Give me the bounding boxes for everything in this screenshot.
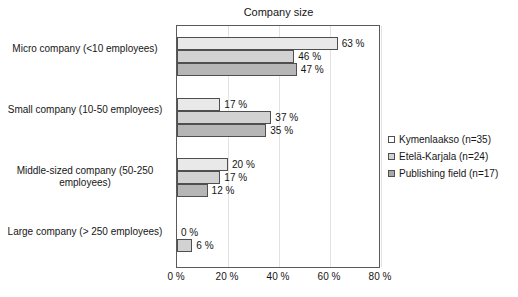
legend-label: Etelä-Karjala (n=24) xyxy=(399,151,488,162)
bar-groups: 63 %46 %47 %17 %37 %35 %20 %17 %12 %0 %6… xyxy=(177,26,379,267)
legend-swatch-icon xyxy=(388,153,395,160)
bar-value-label: 63 % xyxy=(342,38,365,49)
chart-legend: Kymenlaakso (n=35)Etelä-Karjala (n=24)Pu… xyxy=(388,131,516,182)
legend-item[interactable]: Publishing field (n=17) xyxy=(388,165,516,182)
legend-label: Kymenlaakso (n=35) xyxy=(399,134,491,145)
bar-row: 46 % xyxy=(177,50,379,63)
bar xyxy=(177,111,271,124)
category-axis-labels: Micro company (<10 employees)Small compa… xyxy=(0,25,170,268)
category-label: Middle-sized company (50-250 employees) xyxy=(0,165,170,189)
bar-value-label: 12 % xyxy=(212,185,235,196)
bar xyxy=(177,158,228,171)
bar-row: 37 % xyxy=(177,111,379,124)
bar-row: 47 % xyxy=(177,63,379,76)
bar xyxy=(177,184,208,197)
bar xyxy=(177,171,220,184)
x-axis-tick-label: 0 % xyxy=(167,271,184,282)
company-size-chart: Company size Micro company (<10 employee… xyxy=(0,0,518,297)
x-axis-tick-label: 60 % xyxy=(318,271,341,282)
bar xyxy=(177,98,220,111)
category-label: Micro company (<10 employees) xyxy=(0,43,170,55)
bar-row: 63 % xyxy=(177,37,379,50)
gridline xyxy=(381,26,382,267)
bar-group: 0 %6 % xyxy=(177,208,379,269)
x-axis-tick-label: 40 % xyxy=(267,271,290,282)
chart-title: Company size xyxy=(176,6,381,18)
bar xyxy=(177,37,338,50)
bar-group: 20 %17 %12 % xyxy=(177,148,379,209)
x-axis-tick-label: 20 % xyxy=(216,271,239,282)
bar-row: 0 % xyxy=(177,226,379,239)
bar-row: 17 % xyxy=(177,98,379,111)
bar-row: 20 % xyxy=(177,158,379,171)
bar-value-label: 6 % xyxy=(196,240,213,251)
category-label: Small company (10-50 employees) xyxy=(0,104,170,116)
bar-value-label: 37 % xyxy=(275,112,298,123)
x-axis-tick-label: 80 % xyxy=(369,271,392,282)
bar-value-label: 35 % xyxy=(270,125,293,136)
legend-item[interactable]: Kymenlaakso (n=35) xyxy=(388,131,516,148)
bar xyxy=(177,124,266,137)
bar-row: 12 % xyxy=(177,184,379,197)
bar-row: 6 % xyxy=(177,239,379,252)
bar-value-label: 0 % xyxy=(181,227,198,238)
bar-group: 17 %37 %35 % xyxy=(177,87,379,148)
legend-item[interactable]: Etelä-Karjala (n=24) xyxy=(388,148,516,165)
bar-value-label: 20 % xyxy=(232,159,255,170)
bar-value-label: 17 % xyxy=(224,172,247,183)
bar xyxy=(177,239,192,252)
legend-label: Publishing field (n=17) xyxy=(399,168,498,179)
bar-value-label: 47 % xyxy=(301,64,324,75)
legend-swatch-icon xyxy=(388,170,395,177)
bar-value-label: 17 % xyxy=(224,99,247,110)
category-label: Large company (> 250 employees) xyxy=(0,226,170,238)
legend-swatch-icon xyxy=(388,136,395,143)
bar xyxy=(177,63,297,76)
bar-value-label: 46 % xyxy=(298,51,321,62)
plot-area: 63 %46 %47 %17 %37 %35 %20 %17 %12 %0 %6… xyxy=(176,25,380,268)
bar-group: 63 %46 %47 % xyxy=(177,26,379,87)
bar-row: 35 % xyxy=(177,124,379,137)
x-axis-ticks: 0 %20 %40 %60 %80 % xyxy=(176,271,380,287)
bar xyxy=(177,50,294,63)
bar-row: 17 % xyxy=(177,171,379,184)
